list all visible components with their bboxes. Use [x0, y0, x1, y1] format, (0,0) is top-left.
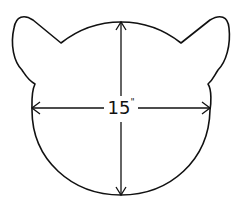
measurement-label: 15" [104, 96, 138, 120]
measurement-value: 15 [107, 97, 130, 118]
inch-mark: " [130, 97, 134, 107]
